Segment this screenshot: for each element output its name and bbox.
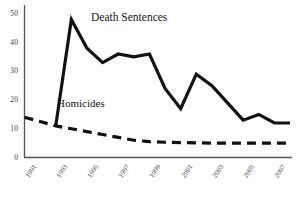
series-line-homicides: [25, 117, 291, 143]
y-axis-tick-label: 0: [2, 153, 18, 162]
chart-series-group: [25, 20, 291, 144]
chart-container: 01020304050 1991199319951997199920012003…: [0, 0, 303, 197]
series-annotation-homicides: Homicides: [57, 97, 105, 109]
y-axis-tick-label: 10: [2, 124, 18, 133]
series-line-death-sentences: [56, 20, 290, 126]
chart-axes: [24, 5, 292, 158]
y-axis-tick-label: 40: [2, 38, 18, 47]
y-axis-tick-label: 50: [2, 9, 18, 18]
y-axis-tick-label: 30: [2, 66, 18, 75]
y-axis-tick-label: 20: [2, 95, 18, 104]
series-annotation-death-sentences: Death Sentences: [91, 11, 167, 23]
